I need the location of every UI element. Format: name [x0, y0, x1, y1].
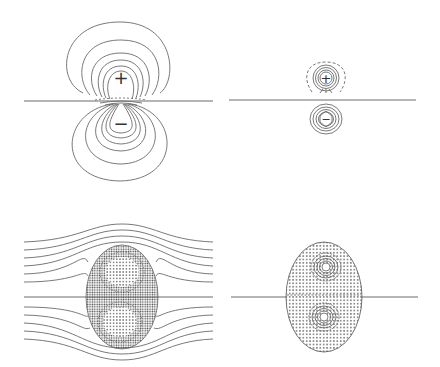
- panel-bottom-left-vortex-streamlines: [0, 200, 220, 367]
- plus-sign: +: [113, 67, 128, 88]
- vortex-pair-oval-diagram: [220, 200, 440, 367]
- panel-bottom-right-vortex-oval: [220, 200, 440, 367]
- plus-sign: +: [321, 71, 332, 86]
- upper-vortex-core: [105, 257, 139, 287]
- dipole-field-diagram-compact: + −: [220, 0, 440, 200]
- dipole-field-diagram-large: + −: [0, 0, 220, 200]
- minus-sign: −: [321, 113, 330, 126]
- minus-sign: −: [113, 113, 128, 134]
- panel-top-right-dipole: + −: [220, 0, 440, 200]
- vortex-pair-streamline-diagram: [0, 200, 220, 367]
- lower-vortex-core: [103, 307, 137, 337]
- panel-top-left-dipole: + −: [0, 0, 220, 200]
- vortex-oval: [86, 245, 158, 349]
